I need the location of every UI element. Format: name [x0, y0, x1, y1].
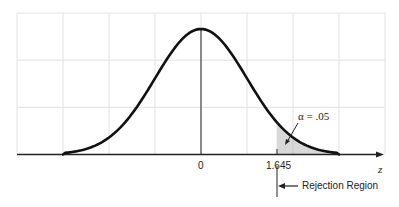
rejection-region-shading [277, 122, 339, 154]
tick-label-critical: 1.645 [266, 160, 291, 171]
axis-label-z: z [378, 163, 382, 175]
tick-label-zero: 0 [198, 160, 204, 171]
rejection-arrowhead [278, 183, 285, 189]
alpha-annotation: α = .05 [298, 110, 329, 122]
normal-distribution-chart [0, 0, 399, 207]
rejection-region-label: Rejection Region [302, 180, 378, 191]
x-axis-arrowhead [376, 152, 384, 158]
